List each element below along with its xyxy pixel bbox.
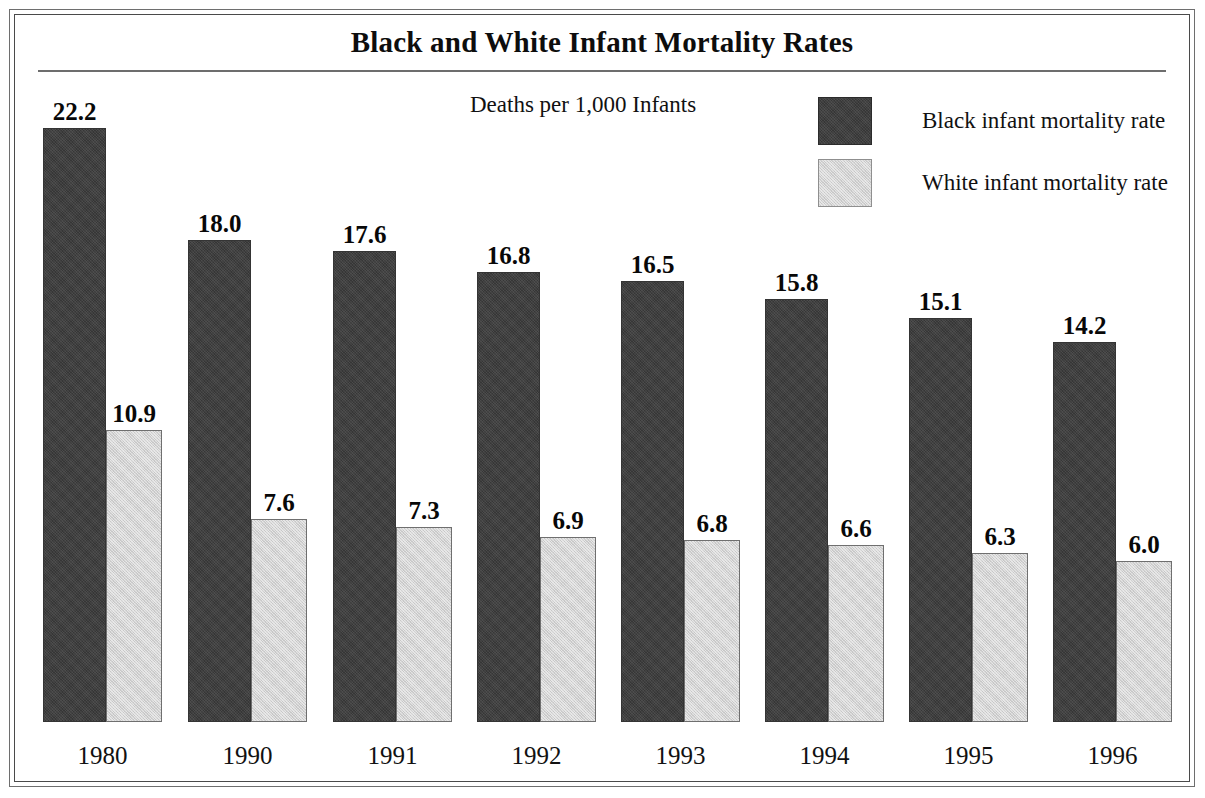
bar-value-label: 6.6 <box>840 515 871 543</box>
bar-black[interactable]: 18.0 <box>188 240 251 722</box>
bar-white[interactable]: 10.9 <box>106 430 162 722</box>
bar-value-label: 7.3 <box>408 497 439 525</box>
bar-value-label: 15.8 <box>775 269 819 297</box>
bar-group: 15.86.61994 <box>765 0 884 798</box>
bar-value-label: 17.6 <box>343 221 387 249</box>
bar-white[interactable]: 6.3 <box>972 553 1028 722</box>
bar-group: 18.07.61990 <box>188 0 307 798</box>
x-axis-category-label: 1990 <box>188 742 307 770</box>
bar-white[interactable]: 6.0 <box>1116 561 1172 722</box>
bar-black[interactable]: 16.8 <box>477 272 540 722</box>
bar-white[interactable]: 6.6 <box>828 545 884 722</box>
x-axis-category-label: 1993 <box>621 742 740 770</box>
bar-value-label: 6.0 <box>1128 531 1159 559</box>
bar-value-label: 16.8 <box>487 242 531 270</box>
bar-black[interactable]: 15.8 <box>765 299 828 722</box>
bar-white[interactable]: 7.3 <box>396 527 452 722</box>
bar-group: 16.56.81993 <box>621 0 740 798</box>
bar-black[interactable]: 15.1 <box>909 318 972 722</box>
chart-page: Black and White Infant Mortality Rates D… <box>0 0 1205 798</box>
bar-value-label: 6.3 <box>984 523 1015 551</box>
x-axis-category-label: 1995 <box>909 742 1028 770</box>
bar-value-label: 6.8 <box>696 510 727 538</box>
bar-value-label: 6.9 <box>552 507 583 535</box>
bar-white[interactable]: 7.6 <box>251 519 307 722</box>
bar-value-label: 10.9 <box>112 400 156 428</box>
plot-area: 22.210.9198018.07.6199017.67.3199116.86.… <box>0 0 1205 798</box>
bar-value-label: 7.6 <box>263 489 294 517</box>
x-axis-category-label: 1992 <box>477 742 596 770</box>
bar-group: 14.26.01996 <box>1053 0 1172 798</box>
bar-group: 15.16.31995 <box>909 0 1028 798</box>
bar-value-label: 16.5 <box>631 251 675 279</box>
bar-value-label: 15.1 <box>919 288 963 316</box>
bar-value-label: 14.2 <box>1063 312 1107 340</box>
bar-white[interactable]: 6.9 <box>540 537 596 722</box>
bar-black[interactable]: 22.2 <box>43 128 106 722</box>
x-axis-category-label: 1996 <box>1053 742 1172 770</box>
x-axis-category-label: 1994 <box>765 742 884 770</box>
x-axis-category-label: 1991 <box>333 742 452 770</box>
bar-black[interactable]: 14.2 <box>1053 342 1116 722</box>
bar-value-label: 18.0 <box>198 210 242 238</box>
bar-black[interactable]: 17.6 <box>333 251 396 722</box>
bar-group: 16.86.91992 <box>477 0 596 798</box>
bar-value-label: 22.2 <box>53 98 97 126</box>
bar-group: 22.210.91980 <box>43 0 162 798</box>
bar-white[interactable]: 6.8 <box>684 540 740 722</box>
bar-group: 17.67.31991 <box>333 0 452 798</box>
bar-black[interactable]: 16.5 <box>621 281 684 722</box>
x-axis-category-label: 1980 <box>43 742 162 770</box>
